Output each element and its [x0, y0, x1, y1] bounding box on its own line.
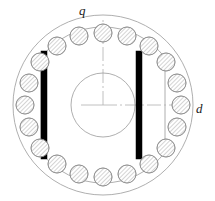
- conductor-bar-17: [20, 74, 38, 92]
- conductor-bar-20: [70, 27, 88, 45]
- conductor-bar-18: [31, 53, 49, 71]
- conductor-bar-14: [31, 139, 49, 157]
- conductor-bar-15: [20, 118, 38, 136]
- magnet-right: [136, 51, 142, 159]
- conductor-bar-1: [94, 24, 112, 42]
- conductor-bar-9: [140, 155, 158, 173]
- d-axis-label: d: [196, 101, 203, 116]
- conductor-bar-16: [16, 96, 34, 114]
- conductor-bar-12: [70, 165, 88, 183]
- conductor-bar-11: [94, 168, 112, 186]
- conductor-bar-10: [118, 165, 136, 183]
- conductor-bar-7: [168, 118, 186, 136]
- figure-canvas: q d: [0, 0, 215, 201]
- conductor-bar-8: [157, 139, 175, 157]
- conductor-bar-2: [118, 27, 136, 45]
- conductor-bar-5: [168, 74, 186, 92]
- conductor-bar-19: [48, 37, 66, 55]
- conductor-bar-13: [48, 155, 66, 173]
- conductor-bar-4: [157, 53, 175, 71]
- conductor-bar-6: [172, 96, 190, 114]
- rotor-cross-section-figure: q d: [0, 0, 215, 201]
- conductor-bar-3: [140, 37, 158, 55]
- q-axis-label: q: [79, 3, 86, 18]
